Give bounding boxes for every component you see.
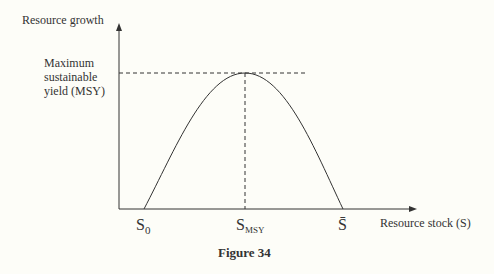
figure-caption: Figure 34 bbox=[218, 245, 271, 261]
s0-label: S0 bbox=[136, 216, 150, 234]
smsy-sub: MSY bbox=[245, 225, 265, 235]
smsy-label: SMSY bbox=[236, 216, 264, 234]
msy-label-line1: Maximum bbox=[44, 56, 94, 70]
msy-label-line3: yield (MSY) bbox=[44, 84, 105, 98]
s0-base: S bbox=[136, 216, 145, 233]
msy-label-line2: sustainable bbox=[44, 70, 97, 84]
smsy-base: S bbox=[236, 216, 245, 233]
x-axis-label: Resource stock (S) bbox=[380, 216, 471, 230]
y-axis-label: Resource growth bbox=[22, 13, 104, 27]
y-axis-arrow-icon bbox=[116, 23, 122, 31]
growth-curve bbox=[144, 73, 343, 209]
s0-sub: 0 bbox=[145, 224, 151, 236]
x-axis-arrow-icon bbox=[409, 206, 417, 212]
sbar-label: S̄ bbox=[338, 216, 347, 234]
